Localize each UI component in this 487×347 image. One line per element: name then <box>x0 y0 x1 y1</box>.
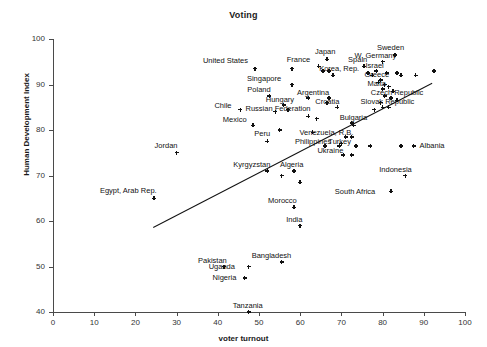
data-point <box>243 276 247 280</box>
point-label: Kyrgyzstan <box>233 161 270 169</box>
point-label: Egypt, Arab Rep. <box>100 187 157 195</box>
point-label: Peru <box>254 130 270 138</box>
point-label: Uganda <box>209 263 235 271</box>
point-label: Albania <box>420 142 445 150</box>
x-tick-mark <box>424 312 425 316</box>
point-label: Bulgaria <box>340 114 368 122</box>
chart-title: Voting <box>0 10 487 20</box>
x-tick-label: 100 <box>453 318 477 327</box>
point-label: Indonesia <box>379 166 412 174</box>
data-point-unlabeled <box>280 174 284 178</box>
point-label: Nigeria <box>213 274 237 282</box>
point-label: Tanzania <box>233 302 263 310</box>
point-label: France <box>287 56 310 64</box>
x-tick-label: 90 <box>412 318 436 327</box>
y-axis-title: Human Development Index <box>22 45 31 205</box>
point-label: Greece <box>365 71 390 79</box>
y-tick-label: 40 <box>23 307 45 316</box>
y-tick-label: 100 <box>23 34 45 43</box>
chart-container: Voting 405060708090100 01020304050607080… <box>0 0 487 347</box>
data-point <box>152 196 156 200</box>
data-point <box>251 123 255 127</box>
data-point-unlabeled <box>278 128 282 132</box>
data-point-unlabeled <box>414 73 418 77</box>
data-point <box>265 169 269 173</box>
point-label: Argentina <box>297 89 329 97</box>
point-label: Singapore <box>247 75 281 83</box>
x-tick-label: 80 <box>371 318 395 327</box>
data-point-unlabeled <box>399 73 403 77</box>
data-point <box>290 83 294 87</box>
point-label: Morocco <box>268 197 297 205</box>
data-point-unlabeled <box>432 69 436 73</box>
y-tick-label: 50 <box>23 262 45 271</box>
x-tick-mark <box>177 312 178 316</box>
x-tick-mark <box>300 312 301 316</box>
x-tick-mark <box>94 312 95 316</box>
point-label: W. Germany <box>355 52 397 60</box>
data-point-unlabeled <box>372 108 376 112</box>
data-point <box>253 67 257 71</box>
point-label: Bangladesh <box>252 252 292 260</box>
data-point <box>412 144 416 148</box>
point-label: South Africa <box>335 188 375 196</box>
point-label: Algeria <box>280 161 303 169</box>
point-label: Jordan <box>155 142 178 150</box>
point-label: Malta <box>368 80 386 88</box>
data-point <box>403 174 407 178</box>
point-label: India <box>286 216 302 224</box>
data-point <box>298 224 302 228</box>
point-label: United States <box>203 57 248 65</box>
point-label: Chile <box>214 102 231 110</box>
x-tick-label: 60 <box>288 318 312 327</box>
point-label: Venezuela, R.B. <box>300 129 354 137</box>
data-point <box>280 260 284 264</box>
data-point <box>325 57 329 61</box>
x-tick-mark <box>135 312 136 316</box>
data-point-unlabeled <box>399 144 403 148</box>
x-tick-mark <box>53 312 54 316</box>
data-point <box>331 73 335 77</box>
data-point <box>292 169 296 173</box>
point-label: Korea, Rep. <box>319 65 359 73</box>
data-point-unlabeled <box>352 123 356 127</box>
data-point <box>247 310 251 314</box>
data-point <box>238 108 242 112</box>
x-axis-title: voter turnout <box>0 334 487 343</box>
data-point <box>175 151 179 155</box>
data-point-unlabeled <box>354 144 358 148</box>
x-tick-label: 0 <box>41 318 65 327</box>
point-label: Ukraine <box>317 147 343 155</box>
x-tick-mark <box>259 312 260 316</box>
data-point-unlabeled <box>315 117 319 121</box>
x-tick-label: 50 <box>247 318 271 327</box>
plot-area: United StatesSingaporeFranceJapanKorea, … <box>53 39 465 312</box>
data-point <box>247 265 251 269</box>
data-point <box>292 205 296 209</box>
x-tick-label: 30 <box>165 318 189 327</box>
point-label: Russian Federation <box>245 105 310 113</box>
data-point-unlabeled <box>350 153 354 157</box>
point-label: Japan <box>315 48 335 56</box>
x-tick-label: 10 <box>82 318 106 327</box>
point-label: Turkey <box>328 138 351 146</box>
data-point-unlabeled <box>298 180 302 184</box>
x-tick-label: 70 <box>329 318 353 327</box>
point-label: Croatia <box>315 98 339 106</box>
x-tick-mark <box>465 312 466 316</box>
point-label: Slovak Republic <box>361 98 415 106</box>
x-tick-mark <box>341 312 342 316</box>
data-point <box>389 189 393 193</box>
x-tick-label: 20 <box>123 318 147 327</box>
point-label: Czech Republic <box>371 89 424 97</box>
point-label: Mexico <box>223 116 247 124</box>
x-tick-mark <box>218 312 219 316</box>
data-point-unlabeled <box>306 114 310 118</box>
point-label: Hungary <box>266 96 294 104</box>
data-point-unlabeled <box>368 144 372 148</box>
data-point <box>265 139 269 143</box>
y-tick-label: 60 <box>23 216 45 225</box>
point-label: Israel <box>365 62 383 70</box>
x-tick-mark <box>383 312 384 316</box>
point-label: Poland <box>247 86 270 94</box>
